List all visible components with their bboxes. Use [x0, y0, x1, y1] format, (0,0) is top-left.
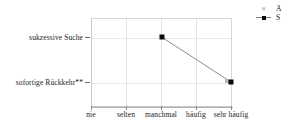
x-axis-label-haeufig: häufig: [186, 110, 206, 119]
y-axis-label-sukzessive-suche: sukzessive Suche: [29, 33, 83, 42]
legend-entry-a: A: [255, 4, 295, 13]
y-axis-label-sofortige-rueckkehr: sofortige Rückkehr**: [16, 78, 83, 87]
x-axis-label-nie: nie: [86, 110, 95, 119]
x-axis-label-manchmal: manchmal: [145, 110, 177, 119]
x-axis-label-sehr-haeufig: sehr häufig: [214, 110, 249, 119]
legend: A S: [255, 4, 295, 22]
legend-entry-s: S: [255, 13, 295, 22]
legend-label-a: A: [272, 4, 281, 13]
x-axis-line: [91, 107, 233, 108]
series-s-line: [91, 18, 232, 107]
y-axis-tick: [85, 37, 90, 38]
x-axis-label-selten: selten: [117, 110, 135, 119]
legend-label-s: S: [272, 13, 280, 22]
legend-marker-a-icon: [255, 4, 272, 13]
data-point-s-manchmal: [159, 35, 164, 40]
y-axis-tick: [85, 82, 90, 83]
legend-marker-s-icon: [255, 13, 272, 22]
data-point-s-sehr-haeufig: [229, 80, 234, 85]
chart-figure: nie selten manchmal häufig sehr häufig s…: [0, 0, 297, 129]
